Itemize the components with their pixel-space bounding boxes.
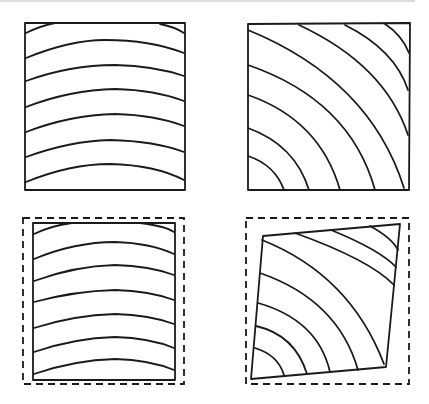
- grain-line: [160, 24, 184, 33]
- grain-arc: [262, 240, 384, 364]
- grain-line: [34, 223, 72, 234]
- grain-line: [140, 223, 174, 232]
- grain-line: [34, 265, 174, 281]
- grain-line: [34, 242, 174, 259]
- panel-top-left-flat-sawn: [25, 23, 185, 190]
- grain-arc: [260, 273, 358, 370]
- grain-line: [26, 40, 184, 58]
- grain-line: [26, 65, 184, 81]
- grain-arc: [248, 156, 284, 190]
- grain-arc: [385, 24, 409, 53]
- grain-line: [26, 164, 184, 182]
- grain-arc: [370, 226, 398, 250]
- grain-line: [26, 23, 55, 33]
- wood-grain-diagram: [0, 0, 429, 404]
- panel-bottom-right-diagonal-shrunk: [246, 218, 409, 384]
- panel-bottom-left-flat-sawn-shrunk: [23, 218, 184, 384]
- grain-arc: [295, 233, 394, 285]
- grain-line: [26, 89, 184, 107]
- grain-line: [34, 314, 174, 328]
- grain-line: [34, 337, 174, 352]
- grain-arc: [248, 65, 375, 190]
- grain-line: [34, 290, 174, 302]
- grain-arc: [299, 25, 408, 135]
- grain-arc: [258, 303, 330, 372]
- panel-top-right-rift-sawn: [248, 23, 410, 190]
- grain-line: [26, 114, 184, 132]
- grain-line: [34, 359, 174, 374]
- grain-line: [26, 140, 184, 157]
- grain-arc: [255, 348, 284, 375]
